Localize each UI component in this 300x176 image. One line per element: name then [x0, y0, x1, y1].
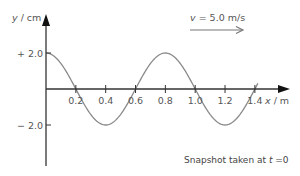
x-tick-label: 1.2: [217, 95, 232, 106]
x-axis-arrow-icon: [278, 85, 290, 93]
x-tick-label: 0.8: [158, 95, 173, 106]
y-tick-label: + 2.0: [17, 48, 43, 59]
x-tick-label: 0.4: [98, 95, 113, 106]
wave-diagram: 0.20.40.60.81.01.21.4 + 2.0− 2.0 y / cm …: [0, 0, 300, 176]
velocity-label: v = 5.0 m/s: [190, 12, 245, 23]
x-ticks: 0.20.40.60.81.01.21.4: [68, 85, 262, 106]
x-tick-label: 1.0: [188, 95, 203, 106]
y-axis-label: y / cm: [11, 12, 41, 23]
x-tick-label: 0.6: [128, 95, 143, 106]
x-axis-label: x / m: [264, 95, 289, 106]
x-tick-label: 1.4: [247, 95, 262, 106]
y-axis-arrow-icon: [42, 14, 50, 26]
x-tick-label: 0.2: [68, 95, 83, 106]
y-tick-label: − 2.0: [17, 120, 43, 131]
snapshot-caption: Snapshot taken at t =0: [184, 155, 289, 165]
